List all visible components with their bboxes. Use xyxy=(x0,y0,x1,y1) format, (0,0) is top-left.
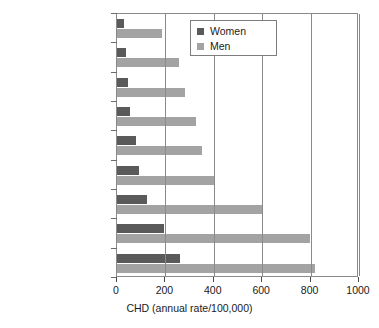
legend-label-men: Men xyxy=(210,41,230,52)
bar-men xyxy=(117,146,202,155)
y-axis-tick xyxy=(111,189,117,190)
x-axis-tick-600 xyxy=(261,277,262,282)
legend-swatch-women-icon xyxy=(197,28,204,35)
chart-container: Spain (Catalonia)France (Toulouse)Italy … xyxy=(0,0,379,328)
x-axis-tick-label: 1000 xyxy=(328,284,379,296)
x-axis-tick-400 xyxy=(213,277,214,282)
bar-group xyxy=(117,78,357,102)
bar-women xyxy=(117,254,180,263)
bar-group xyxy=(117,166,357,190)
y-axis-tick xyxy=(111,72,117,73)
y-axis-tick xyxy=(111,101,117,102)
bar-men xyxy=(117,88,185,97)
bar-women xyxy=(117,107,130,116)
legend-item-women: Women xyxy=(197,24,276,39)
bar-women xyxy=(117,48,126,57)
legend-swatch-men-icon xyxy=(197,43,204,50)
x-axis-tick-0 xyxy=(116,277,117,282)
bar-women xyxy=(117,136,136,145)
y-axis-tick xyxy=(111,42,117,43)
x-axis-title: CHD (annual rate/100,000) xyxy=(0,302,379,314)
bar-men xyxy=(117,264,315,273)
bar-group xyxy=(117,254,357,278)
bar-women xyxy=(117,224,164,233)
y-axis-tick xyxy=(111,218,117,219)
bar-group xyxy=(117,224,357,248)
gridline-1000 xyxy=(359,14,360,276)
bar-group xyxy=(117,136,357,160)
bar-group xyxy=(117,195,357,219)
bar-men xyxy=(117,205,262,214)
x-axis-tick-200 xyxy=(164,277,165,282)
bar-women xyxy=(117,19,124,28)
bar-women xyxy=(117,78,128,87)
bar-men xyxy=(117,58,179,67)
y-axis-tick xyxy=(111,160,117,161)
x-axis-tick-800 xyxy=(310,277,311,282)
bar-men xyxy=(117,117,196,126)
bar-women xyxy=(117,195,147,204)
bar-group xyxy=(117,107,357,131)
gridline-800 xyxy=(311,14,312,276)
gridline-200 xyxy=(165,14,166,276)
y-axis-tick xyxy=(111,248,117,249)
legend-label-women: Women xyxy=(210,26,246,37)
y-axis-tick xyxy=(111,13,117,14)
y-axis-tick xyxy=(111,130,117,131)
x-axis-tick-1000 xyxy=(358,277,359,282)
legend-item-men: Men xyxy=(197,39,276,54)
bar-women xyxy=(117,166,139,175)
legend: Women Men xyxy=(190,20,277,56)
bar-men xyxy=(117,29,162,38)
